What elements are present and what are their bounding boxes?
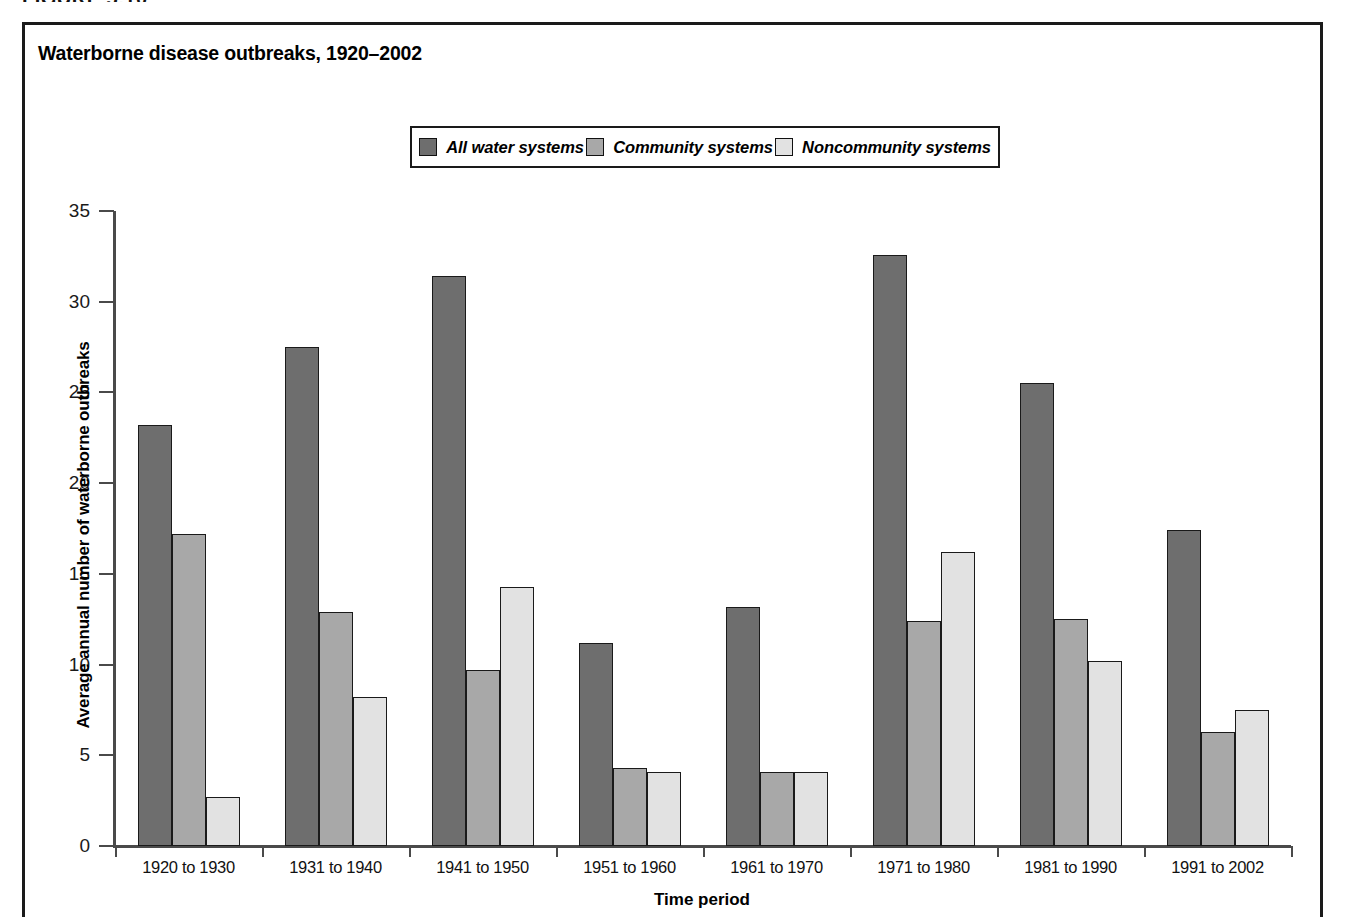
y-tick-label-35: 35 <box>30 200 90 222</box>
x-tick-label: 1931 to 1940 <box>256 858 416 877</box>
bar <box>1201 732 1235 846</box>
bar <box>613 768 647 846</box>
x-tick-label: 1961 to 1970 <box>697 858 857 877</box>
y-tick-30 <box>99 301 114 303</box>
bar <box>1020 383 1054 846</box>
x-tick <box>1291 846 1293 857</box>
y-tick-15 <box>99 573 114 575</box>
bar <box>1167 530 1201 846</box>
bar <box>466 670 500 846</box>
bar <box>647 772 681 846</box>
y-axis-title: Average annual number of waterborne outb… <box>74 255 94 815</box>
x-tick-label: 1981 to 1990 <box>991 858 1151 877</box>
bar <box>1088 661 1122 846</box>
y-tick-label-0: 0 <box>30 835 90 857</box>
bar <box>138 425 172 846</box>
x-tick <box>1144 846 1146 857</box>
bar <box>319 612 353 846</box>
x-tick-label: 1991 to 2002 <box>1138 858 1298 877</box>
bar <box>794 772 828 846</box>
bar-group <box>556 211 703 846</box>
bar <box>760 772 794 846</box>
bar-group <box>997 211 1144 846</box>
x-tick-label: 1951 to 1960 <box>550 858 710 877</box>
bars-layer <box>115 211 1291 846</box>
y-tick-0 <box>99 845 114 847</box>
x-tick <box>556 846 558 857</box>
x-tick <box>703 846 705 857</box>
bar <box>206 797 240 846</box>
bar <box>907 621 941 846</box>
x-axis-title: Time period <box>113 890 1291 910</box>
bar-group <box>1144 211 1291 846</box>
bar <box>873 255 907 846</box>
bar <box>285 347 319 846</box>
bar-group <box>262 211 409 846</box>
y-tick-20 <box>99 482 114 484</box>
bar <box>353 697 387 846</box>
bar-group <box>850 211 997 846</box>
bar <box>1235 710 1269 846</box>
bar <box>941 552 975 846</box>
bar <box>500 587 534 846</box>
x-tick <box>262 846 264 857</box>
x-tick-label: 1941 to 1950 <box>403 858 563 877</box>
x-tick <box>115 846 117 857</box>
bar <box>726 607 760 846</box>
x-tick <box>850 846 852 857</box>
bar <box>432 276 466 846</box>
plot-area: 05101520253035 1920 to 19301931 to 19401… <box>0 0 1345 919</box>
x-tick-label: 1971 to 1980 <box>844 858 1004 877</box>
y-tick-5 <box>99 754 114 756</box>
bar <box>579 643 613 846</box>
bar-group <box>115 211 262 846</box>
y-tick-25 <box>99 391 114 393</box>
bar <box>172 534 206 846</box>
y-tick-10 <box>99 664 114 666</box>
x-tick <box>997 846 999 857</box>
bar-group <box>409 211 556 846</box>
x-tick-label: 1920 to 1930 <box>109 858 269 877</box>
x-tick <box>409 846 411 857</box>
bar <box>1054 619 1088 846</box>
y-tick-35 <box>99 210 114 212</box>
bar-group <box>703 211 850 846</box>
